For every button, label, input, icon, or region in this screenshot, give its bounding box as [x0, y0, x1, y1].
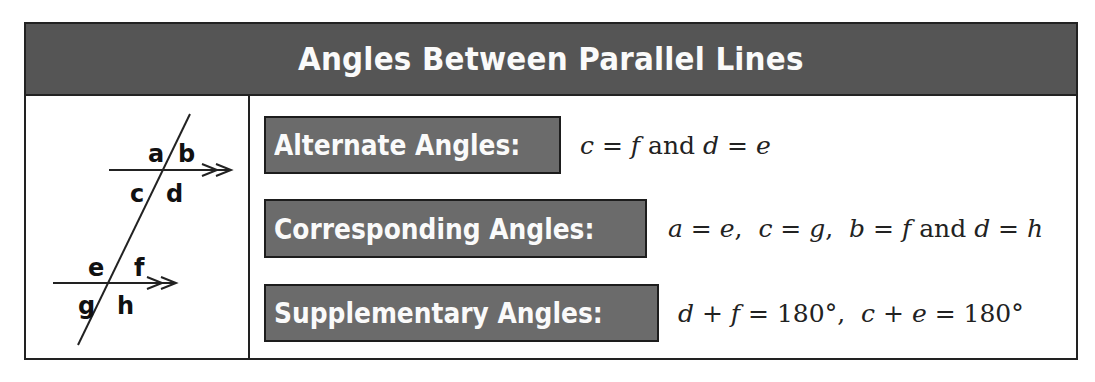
angle-label-e: e — [88, 254, 104, 282]
parallel-lines-diagram: a b c d e f g h — [26, 24, 248, 362]
alternate-angles-label-text: Alternate Angles: — [274, 128, 520, 162]
supplementary-angles-equation: d + f = 180°, c + e = 180° — [678, 284, 1024, 342]
corresponding-angles-equation: a = e, c = g, b = f and d = h — [668, 199, 1043, 258]
corresponding-angles-label: Corresponding Angles: — [264, 199, 647, 258]
alternate-angles-equation: c = f and d = e — [580, 116, 771, 174]
column-divider — [248, 96, 250, 358]
page-title: Angles Between Parallel Lines — [298, 40, 804, 78]
angle-label-g: g — [78, 292, 95, 320]
supplementary-angles-label-text: Supplementary Angles: — [274, 296, 603, 330]
angle-label-h: h — [117, 292, 134, 320]
angle-label-f: f — [134, 254, 145, 282]
angle-label-b: b — [178, 140, 195, 168]
angle-label-c: c — [130, 180, 144, 208]
alternate-angles-equation-text: c = f and d = e — [580, 131, 771, 160]
alternate-angles-label: Alternate Angles: — [264, 116, 561, 174]
corresponding-angles-equation-text: a = e, c = g, b = f and d = h — [668, 214, 1043, 243]
supplementary-angles-equation-text: d + f = 180°, c + e = 180° — [678, 299, 1024, 328]
angle-label-d: d — [166, 180, 183, 208]
corresponding-angles-label-text: Corresponding Angles: — [274, 212, 594, 246]
angles-table: Angles Between Parallel Lines a b c d e … — [24, 22, 1078, 360]
supplementary-angles-label: Supplementary Angles: — [264, 284, 659, 342]
angle-label-a: a — [148, 140, 164, 168]
